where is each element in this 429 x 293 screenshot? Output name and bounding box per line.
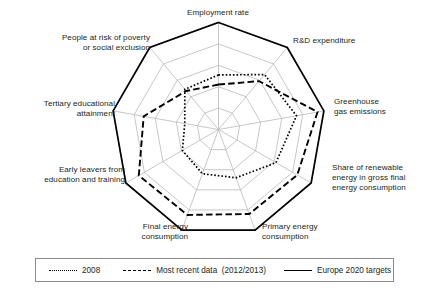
legend-item-europe-2020-targets: Europe 2020 targets: [284, 266, 391, 275]
grid-spoke: [219, 48, 288, 130]
chart-legend: 2008 Most recent data (2012/2013) Europe…: [35, 258, 394, 282]
grid-spoke: [113, 111, 218, 130]
dotted-line-swatch-icon: [49, 270, 77, 271]
axis-label-primary-energy-consumption: Primary energy consumption: [262, 222, 372, 242]
axis-label-final-energy-consumption: Final energy consumption: [95, 222, 188, 242]
legend-label-europe-2020-targets: Europe 2020 targets: [317, 266, 391, 275]
grid-spoke: [219, 130, 312, 184]
legend-item-2008: 2008: [49, 266, 100, 275]
grid-spoke: [219, 111, 324, 130]
axis-label-rd-expenditure: R&D expenditure: [293, 36, 423, 46]
legend-item-most-recent-data: Most recent data (2012/2013): [123, 266, 266, 275]
dashed-line-swatch-icon: [123, 270, 151, 271]
axis-label-early-leavers: Early leavers from education and trainin…: [8, 165, 125, 185]
legend-label-2008: 2008: [82, 266, 100, 275]
solid-line-swatch-icon: [284, 270, 312, 271]
grid-spoke: [150, 48, 219, 130]
radar-chart-figure: Employment rate R&D expenditure Greenhou…: [0, 0, 429, 293]
axis-label-employment-rate: Employment rate: [150, 8, 286, 18]
axis-label-greenhouse-gas-emissions: Greenhouse gas emissions: [334, 97, 429, 117]
legend-label-most-recent-data: Most recent data (2012/2013): [156, 266, 266, 275]
axis-label-share-of-renewable-energy: Share of renewable energy in gross final…: [332, 163, 429, 194]
axis-label-people-at-risk-of-poverty: People at risk of poverty or social excl…: [16, 33, 150, 53]
axis-label-tertiary-educational-attainment: Tertiary educational attainment: [5, 99, 115, 119]
